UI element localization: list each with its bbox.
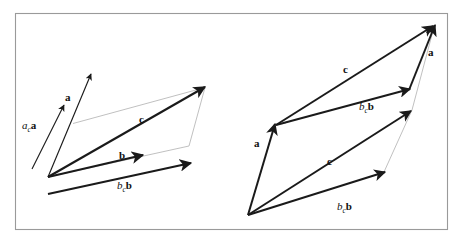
- label-c-upper: c: [343, 63, 348, 75]
- label-bc-b-vector: b: [126, 179, 132, 191]
- label-a-upper: a: [428, 46, 434, 58]
- label-bc-b-lower-vector: b: [346, 200, 352, 212]
- label-b: b: [119, 149, 125, 161]
- label-c: c: [139, 113, 144, 125]
- label-bc-b-upper-vector: b: [368, 100, 374, 112]
- label-a-lower: a: [254, 137, 260, 149]
- label-a: a: [65, 91, 71, 103]
- label-ac-a-vector: a: [31, 119, 37, 131]
- figure-root: aca a c b bcb: [0, 0, 463, 244]
- vector-diagram-canvas: aca a c b bcb: [0, 0, 463, 244]
- label-c-lower: c: [327, 155, 332, 167]
